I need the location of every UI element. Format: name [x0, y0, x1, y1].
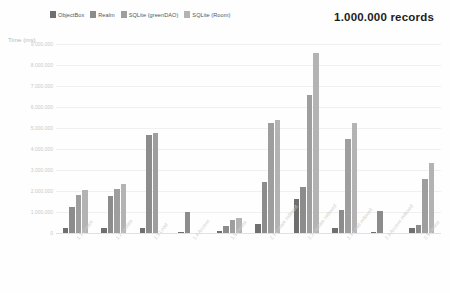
bar	[114, 189, 120, 233]
y-axis-tick-label: 4.000.000	[31, 146, 53, 152]
y-axis-tick-label: 0	[50, 230, 53, 236]
x-axis-label-cell: 2.2 Update indexed	[287, 234, 326, 290]
bar	[108, 196, 114, 233]
x-axis-labels: 1.1 Create1.2 Update1.3 Load1.4 Access1.…	[56, 234, 441, 290]
bar	[262, 182, 268, 233]
bar	[140, 228, 146, 233]
bar	[300, 187, 306, 233]
bar	[313, 53, 319, 233]
x-axis-label-cell: 1.2 Update	[95, 234, 134, 290]
legend-item-label: ObjectBox	[58, 12, 84, 18]
bar	[275, 120, 281, 233]
bar-group	[56, 44, 95, 233]
y-axis-tick-label: 3.000.000	[31, 167, 53, 173]
bar	[268, 123, 274, 233]
legend-item: SQLite (greenDAO)	[121, 11, 179, 18]
bar-group	[95, 44, 134, 233]
bar	[352, 123, 358, 233]
bar-group	[249, 44, 288, 233]
legend-item-label: SQLite (greenDAO)	[129, 12, 179, 18]
y-axis-tick-label: 1.000.000	[31, 209, 53, 215]
bar	[185, 212, 191, 233]
bar	[422, 179, 428, 233]
bar-group	[133, 44, 172, 233]
bar	[339, 210, 345, 233]
bar	[255, 224, 261, 233]
x-axis-label-cell: 2.4 Access indexed	[364, 234, 403, 290]
y-axis-tick-label: 6.000.000	[31, 104, 53, 110]
bar	[101, 228, 107, 233]
x-axis-label-cell: 1.5 Delete	[210, 234, 249, 290]
y-axis-tick-label: 2.000.000	[31, 188, 53, 194]
plot-area: 01.000.0002.000.0003.000.0004.000.0005.0…	[56, 44, 441, 233]
legend-swatch-icon	[121, 11, 127, 18]
bar-group	[210, 44, 249, 233]
bar	[307, 95, 313, 233]
x-axis-label-cell: 1.1 Create	[56, 234, 95, 290]
legend-item: ObjectBox	[50, 11, 84, 18]
legend-item: Realm	[90, 11, 114, 18]
legend-swatch-icon	[90, 11, 96, 18]
chart-title: 1.000.000 records	[334, 11, 434, 23]
bar	[63, 228, 69, 233]
bar	[345, 139, 351, 234]
y-axis-tick-label: 7.000.000	[31, 83, 53, 89]
bar	[223, 226, 229, 233]
bar-group	[172, 44, 211, 233]
bar-groups	[56, 44, 441, 233]
bar	[332, 228, 338, 233]
bar-group	[364, 44, 403, 233]
bar	[217, 231, 223, 233]
bar	[178, 232, 184, 233]
x-axis-label-cell: 2.5 Delete	[403, 234, 442, 290]
x-axis-label-cell: 2.3 Load indexed	[326, 234, 365, 290]
legend-swatch-icon	[184, 11, 190, 18]
bar	[409, 228, 415, 233]
x-axis-label-cell: 1.3 Load	[133, 234, 172, 290]
x-axis-label-cell: 2.1 Create indexed	[249, 234, 288, 290]
chart-legend: ObjectBoxRealmSQLite (greenDAO)SQLite (R…	[50, 11, 230, 18]
y-axis-tick-label: 5.000.000	[31, 125, 53, 131]
legend-item: SQLite (Room)	[184, 11, 230, 18]
x-axis-label-cell: 1.4 Access	[172, 234, 211, 290]
bar	[69, 207, 75, 233]
bar	[377, 211, 383, 233]
bar	[146, 135, 152, 233]
bar	[153, 133, 159, 233]
bar	[371, 232, 377, 233]
bar	[416, 225, 422, 233]
bar	[76, 195, 82, 233]
legend-item-label: SQLite (Room)	[192, 12, 230, 18]
y-axis-tick-label: 8.000.000	[31, 62, 53, 68]
y-axis-tick-label: 9.000.000	[31, 41, 53, 47]
legend-swatch-icon	[50, 11, 56, 18]
chart-screenshot: ObjectBoxRealmSQLite (greenDAO)SQLite (R…	[0, 0, 450, 293]
legend-item-label: Realm	[98, 12, 114, 18]
